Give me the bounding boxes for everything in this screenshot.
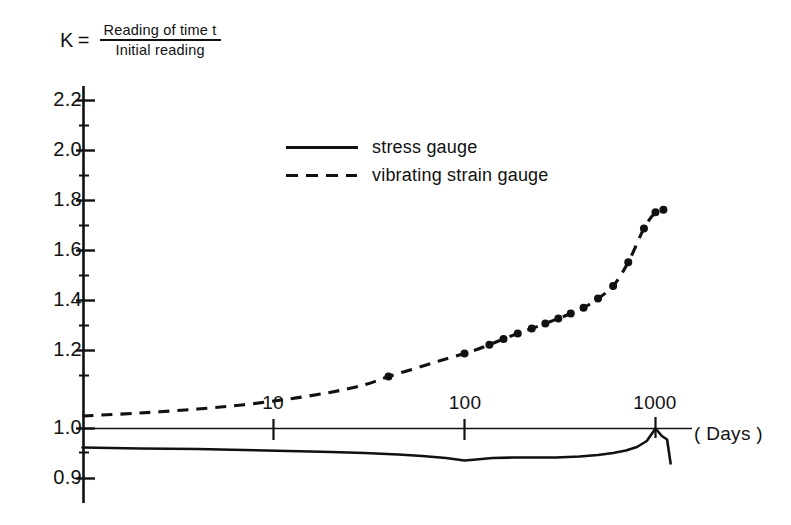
data-point-marker (609, 282, 617, 290)
y-major-ticks (76, 101, 95, 479)
data-point-marker (554, 315, 562, 323)
data-point-marker (652, 208, 660, 216)
series-line-stress-gauge (83, 429, 671, 464)
data-point-marker (567, 310, 575, 318)
data-point-marker (594, 295, 602, 303)
data-point-marker (541, 320, 549, 328)
data-point-marker (580, 304, 588, 312)
data-point-marker (514, 330, 522, 338)
data-point-marker (640, 225, 648, 233)
data-point-marker (659, 206, 667, 214)
data-point-marker (528, 325, 536, 333)
series-markers-vibrating-strain-gauge (384, 206, 667, 381)
data-point-marker (499, 335, 507, 343)
data-point-marker (624, 258, 632, 266)
series-line-vibrating-strain-gauge (83, 210, 664, 416)
data-point-marker (384, 373, 392, 381)
plot-canvas (0, 0, 791, 525)
chart-figure: K = Reading of time t Initial reading 2.… (0, 0, 791, 525)
data-point-marker (485, 341, 493, 349)
data-point-marker (461, 350, 469, 358)
